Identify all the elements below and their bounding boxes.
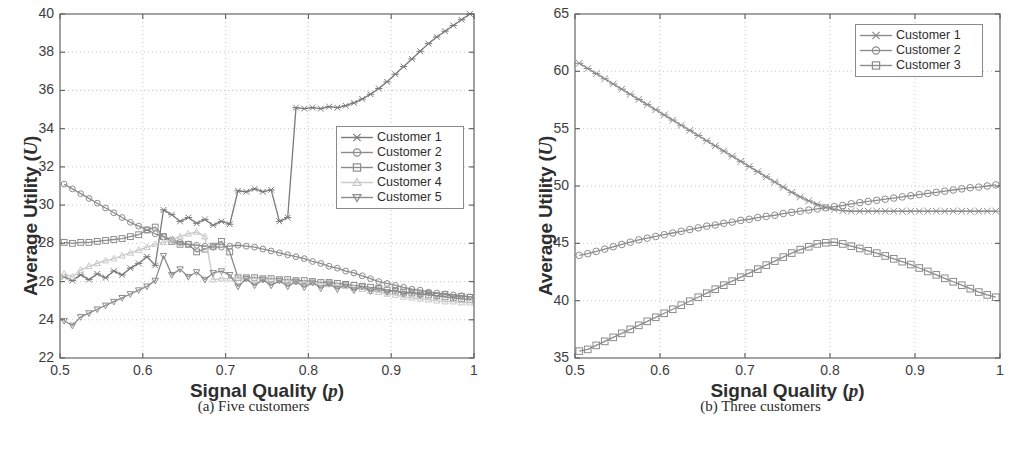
legend-marker-triangle-down-icon <box>340 190 374 205</box>
legend-item: Customer 2 <box>340 145 458 160</box>
legend-marker-circle-icon <box>859 43 893 58</box>
legend-label: Customer 5 <box>374 190 442 205</box>
legend-marker-x-cross-icon <box>859 28 893 43</box>
legend-marker-x-cross-icon <box>340 130 374 145</box>
legend-marker-triangle-up-icon <box>340 175 374 190</box>
legend-marker-circle-icon <box>340 145 374 160</box>
y-tick-label: 65 <box>535 5 569 21</box>
y-tick-label: 30 <box>20 196 54 212</box>
y-tick-label: 24 <box>20 311 54 327</box>
legend-item: Customer 1 <box>340 130 458 145</box>
legend-marker-square-icon <box>859 58 893 73</box>
legend-item: Customer 5 <box>340 190 458 205</box>
x-tick-label: 0.7 <box>725 362 765 378</box>
y-axis-label-b: Average Utility (U) <box>535 136 557 296</box>
legend-label: Customer 3 <box>374 160 442 175</box>
y-tick-label: 60 <box>535 62 569 78</box>
panel-caption-a: (a) Five customers <box>0 398 507 415</box>
x-tick-label: 0.7 <box>206 362 246 378</box>
figure-container: Average Utility (U) Signal Quality (p) (… <box>0 0 1014 474</box>
legend-label: Customer 2 <box>893 43 961 58</box>
y-tick-label: 45 <box>535 234 569 250</box>
legend-item: Customer 3 <box>859 58 977 73</box>
y-tick-label: 36 <box>20 81 54 97</box>
x-tick-label: 0.5 <box>555 362 595 378</box>
x-tick-label: 0.8 <box>288 362 328 378</box>
y-tick-label: 28 <box>20 234 54 250</box>
legend-label: Customer 1 <box>374 130 442 145</box>
legend-item: Customer 3 <box>340 160 458 175</box>
legend-item: Customer 2 <box>859 43 977 58</box>
y-tick-label: 40 <box>535 292 569 308</box>
y-tick-label: 32 <box>20 158 54 174</box>
legend-label: Customer 2 <box>374 145 442 160</box>
y-tick-label: 55 <box>535 120 569 136</box>
x-tick-label: 1 <box>454 362 494 378</box>
panel-five-customers: Average Utility (U) Signal Quality (p) (… <box>0 0 507 474</box>
x-tick-label: 0.6 <box>123 362 163 378</box>
x-tick-label: 0.9 <box>895 362 935 378</box>
legend-item: Customer 4 <box>340 175 458 190</box>
panel-three-customers: Average Utility (U) Signal Quality (p) (… <box>507 0 1014 474</box>
panel-caption-b: (b) Three customers <box>507 398 1014 415</box>
x-tick-label: 0.6 <box>640 362 680 378</box>
y-tick-label: 38 <box>20 43 54 59</box>
legend-a: Customer 1Customer 2Customer 3Customer 4… <box>336 126 464 209</box>
x-tick-label: 0.8 <box>810 362 850 378</box>
y-tick-label: 50 <box>535 177 569 193</box>
y-tick-label: 26 <box>20 273 54 289</box>
x-tick-label: 1 <box>980 362 1014 378</box>
legend-label: Customer 4 <box>374 175 442 190</box>
x-tick-label: 0.5 <box>40 362 80 378</box>
legend-marker-square-icon <box>340 160 374 175</box>
legend-item: Customer 1 <box>859 28 977 43</box>
x-tick-label: 0.9 <box>371 362 411 378</box>
legend-label: Customer 1 <box>893 28 961 43</box>
y-tick-label: 34 <box>20 120 54 136</box>
legend-label: Customer 3 <box>893 58 961 73</box>
y-tick-label: 40 <box>20 5 54 21</box>
legend-b: Customer 1Customer 2Customer 3 <box>855 24 983 77</box>
